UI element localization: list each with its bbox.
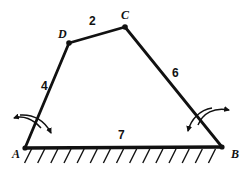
geometry-diagram: A B C D 4 2 6 7 [0, 0, 246, 174]
hatch-mark [156, 149, 163, 163]
hatch-mark [51, 149, 58, 163]
hatch-mark [77, 149, 84, 163]
side-cb [125, 27, 222, 147]
ground-line-segment-ab [25, 147, 222, 148]
hatch-mark [25, 149, 32, 163]
hatch-mark [130, 149, 137, 163]
hatch-mark [90, 149, 97, 163]
hatch-mark [38, 149, 45, 163]
hatch-mark [64, 149, 71, 163]
vertex-dot-b [219, 144, 224, 149]
hatch-mark [208, 149, 215, 163]
vertex-label-c: C [121, 8, 130, 22]
hatch-mark [143, 149, 150, 163]
side-length-label-dc: 2 [89, 14, 96, 28]
hatch-mark [195, 149, 202, 163]
side-length-label-ad: 4 [41, 79, 48, 93]
side-dc [69, 27, 125, 43]
vertex-dot-d [66, 40, 72, 46]
vertex-label-b: B [230, 147, 239, 161]
side-length-label-ab: 7 [118, 128, 125, 142]
side-ad [25, 43, 69, 148]
diagram-canvas: A B C D 4 2 6 7 [0, 0, 246, 174]
side-length-label-cb: 6 [172, 66, 179, 80]
hatch-mark [182, 149, 189, 163]
hatch-mark [103, 149, 110, 163]
hatch-mark [169, 149, 176, 163]
hatch-mark [117, 149, 124, 163]
ground-hatching [25, 149, 216, 163]
vertex-dot-c [122, 24, 128, 30]
vertex-label-d: D [57, 27, 67, 41]
vertex-label-a: A [11, 147, 20, 161]
vertex-dot-a [22, 145, 27, 150]
